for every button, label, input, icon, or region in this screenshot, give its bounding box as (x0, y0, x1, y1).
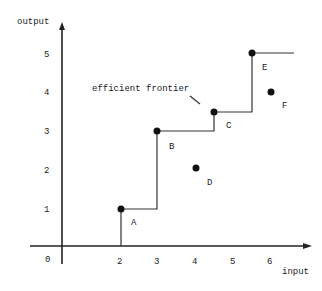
annotation-arrow-icon (190, 96, 200, 104)
efficient-frontier-annotation: efficient frontier (92, 84, 189, 94)
point-e (249, 50, 256, 57)
y-tick: 2 (44, 166, 49, 176)
point-b (154, 128, 161, 135)
point-label-a: A (131, 218, 137, 228)
y-tick: 5 (44, 50, 49, 60)
x-axis-label: input (282, 267, 309, 277)
origin-label: 0 (45, 255, 50, 265)
point-label-d: D (207, 178, 212, 188)
point-c (211, 109, 218, 116)
y-axis-arrow-icon (59, 22, 65, 30)
point-d (193, 165, 200, 172)
point-f (268, 89, 275, 96)
point-label-c: C (226, 121, 232, 131)
efficient-frontier-line (121, 53, 294, 246)
point-label-f: F (282, 101, 287, 111)
x-tick: 2 (117, 257, 122, 267)
x-tick: 5 (230, 257, 235, 267)
point-label-e: E (262, 63, 267, 73)
y-axis-label: output (17, 17, 49, 27)
x-axis-arrow-icon (303, 243, 312, 249)
y-tick: 3 (44, 127, 49, 137)
x-tick: 3 (154, 257, 159, 267)
y-tick: 4 (44, 88, 49, 98)
x-tick: 6 (267, 257, 272, 267)
y-tick: 1 (44, 205, 49, 215)
x-tick: 4 (192, 257, 197, 267)
efficient-frontier-chart: output input 0 5 4 3 2 1 2 3 4 5 6 A B C… (0, 0, 322, 291)
point-a (118, 206, 125, 213)
point-label-b: B (169, 142, 175, 152)
